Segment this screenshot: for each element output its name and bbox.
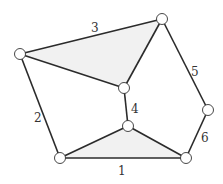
node-d [123, 121, 134, 132]
shaded-face-fdg [60, 126, 186, 158]
node-b [157, 14, 168, 25]
node-c [119, 83, 130, 94]
graph-diagram: 3 2 4 5 6 1 [0, 0, 223, 184]
node-e [203, 105, 214, 116]
edge-label-6: 6 [201, 131, 209, 145]
node-a [15, 49, 26, 60]
edge-label-5: 5 [191, 65, 199, 79]
edge-label-2: 2 [34, 111, 42, 125]
edge-label-4: 4 [131, 102, 139, 116]
edge-label-3: 3 [91, 21, 99, 35]
edge-b-e [162, 19, 208, 110]
edge-label-1: 1 [118, 164, 126, 178]
node-g [181, 153, 192, 164]
edge-a-f [20, 54, 60, 158]
node-f [55, 153, 66, 164]
